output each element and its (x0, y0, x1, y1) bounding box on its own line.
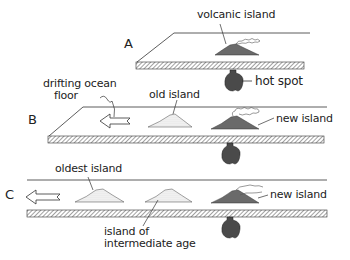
label-floor: floor (54, 90, 78, 102)
hotspot-b (222, 143, 240, 164)
smoke-b (232, 108, 259, 117)
new-island-c (211, 190, 259, 203)
old-island-b (148, 114, 192, 127)
hotspot-diagram-canvas (0, 0, 350, 260)
label-oldest-island: oldest island (55, 163, 122, 175)
drift-arrow-b (100, 114, 130, 128)
hotspot-c (222, 217, 240, 238)
panel-c (26, 177, 327, 238)
smoke-a (236, 39, 260, 45)
new-island-b (211, 116, 259, 129)
label-old-island: old island (149, 89, 200, 101)
label-hot-spot: hot spot (255, 75, 303, 87)
panel-letter-b: B (28, 112, 37, 127)
label-new-island-b: new island (276, 113, 333, 125)
intermediate-island-c (145, 189, 192, 202)
label-volcanic-island: volcanic island (197, 9, 275, 21)
volcanic-island-a (215, 44, 259, 55)
plate-a-surface (137, 33, 310, 62)
label-intermediate-age: intermediate age (104, 238, 196, 250)
panel-letter-a: A (124, 36, 133, 51)
panel-letter-c: C (5, 187, 14, 202)
hotspot-a (225, 70, 243, 91)
plate-a-slab (136, 62, 304, 69)
plate-b-slab (48, 136, 324, 143)
oldest-island-c (75, 189, 124, 202)
drift-arrow-c (26, 190, 60, 204)
label-new-island-c: new island (270, 189, 327, 201)
plate-c-slab (27, 210, 327, 217)
panel-b (48, 96, 327, 164)
